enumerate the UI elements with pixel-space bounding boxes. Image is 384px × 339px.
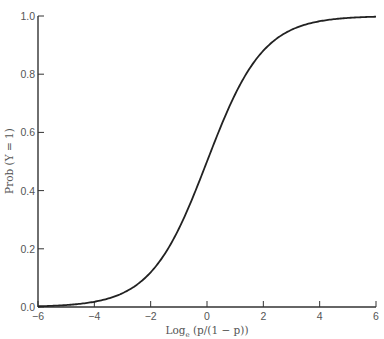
x-axis-label: Loge (p/(1 − p)) [165, 324, 248, 339]
y-axis: 0.00.20.40.60.81.0 [20, 10, 44, 313]
x-tick-label: −2 [145, 310, 157, 322]
x-tick-label: 4 [317, 310, 323, 322]
y-tick-label: 0.2 [20, 243, 35, 255]
y-tick-label: 0.6 [20, 126, 35, 138]
x-tick-label: −4 [88, 310, 100, 322]
x-tick-label: 6 [373, 310, 379, 322]
logistic-curve [38, 17, 376, 307]
y-axis-label: Prob (Y = 1) [3, 128, 15, 194]
x-tick-label: −6 [32, 310, 44, 322]
y-tick-label: 0.8 [20, 68, 35, 80]
x-tick-label: 2 [260, 310, 266, 322]
chart: 0.00.20.40.60.81.0 −6−4−20246 Prob (Y = … [0, 0, 384, 339]
x-tick-label: 0 [204, 310, 210, 322]
y-tick-label: 1.0 [20, 10, 35, 22]
y-tick-label: 0.4 [20, 185, 35, 197]
